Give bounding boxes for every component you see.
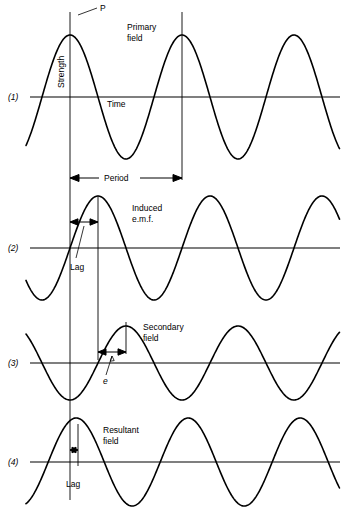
peak-marker-label: P (100, 3, 106, 13)
period-arrow-left-icon (70, 175, 79, 182)
strength-axis-label: Strength (56, 56, 66, 88)
panel-3-title-line1: Secondary (143, 322, 184, 332)
panel-2-title-line2: e.m.f. (132, 214, 153, 224)
panel-1-annotations: P Primary field Strength Time (56, 3, 157, 109)
panel-tag-4: (4) (8, 457, 19, 467)
waveform-figure: P Primary field Strength Time Period Ind… (0, 0, 344, 522)
emf-leader-arrow-icon (110, 356, 114, 361)
lag2-arrow-right-icon (90, 219, 98, 225)
lag4-label: Lag (66, 479, 80, 489)
panel-2-title-line1: Induced (132, 203, 163, 213)
lag2-label: Lag (70, 262, 84, 272)
panel-4-title-line2: field (103, 436, 119, 446)
baseline-axes-group (30, 97, 340, 462)
emf-symbol-label: e (103, 376, 108, 386)
period-dimension: Period (70, 171, 182, 185)
panel-4-title-line1: Resultant (103, 425, 140, 435)
lag2-arrow-left-icon (70, 219, 78, 225)
period-arrow-right-icon (173, 175, 182, 182)
panel-1-title-line1: Primary (127, 22, 157, 32)
panel-tag-1: (1) (8, 92, 19, 102)
panel-tags-group: (1) (2) (3) (4) (8, 92, 19, 467)
period-label: Period (104, 173, 129, 183)
time-axis-label: Time (107, 99, 126, 109)
panel-tag-3: (3) (8, 358, 19, 368)
peak-leader-line (78, 8, 97, 15)
waveform-diagram: P Primary field Strength Time Period Ind… (0, 0, 344, 522)
panel-1-title-line2: field (127, 33, 143, 43)
lag2-leader-line (76, 226, 84, 258)
panel-3-annotations: Secondary field e (98, 322, 184, 386)
panel-3-title-line2: field (143, 333, 159, 343)
emf-arrow-right-icon (118, 349, 126, 355)
panel-tag-2: (2) (8, 243, 19, 253)
